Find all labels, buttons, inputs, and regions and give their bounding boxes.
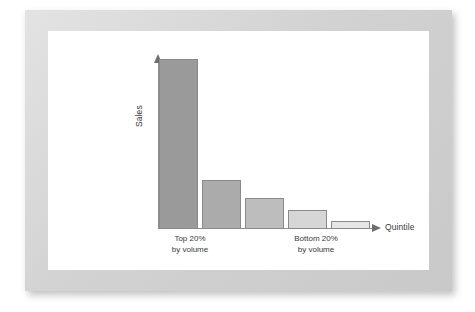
- caption-bottom-line2: by volume: [298, 245, 334, 254]
- caption-bottom-quintile: Bottom 20% by volume: [270, 234, 362, 255]
- caption-bottom-line1: Bottom 20%: [294, 234, 338, 243]
- bar-quintile-5: [331, 221, 370, 230]
- bar-quintile-1: [159, 59, 198, 229]
- bar-quintile-2: [202, 180, 241, 229]
- bar-quintile-3: [245, 198, 284, 229]
- figure-frame: Sales Quintile Top 20% by volume Bottom …: [25, 10, 452, 291]
- bar-quintile-4: [288, 210, 327, 229]
- caption-top-line1: Top 20%: [174, 234, 205, 243]
- chart-canvas: Sales Quintile Top 20% by volume Bottom …: [48, 31, 429, 270]
- caption-top-quintile: Top 20% by volume: [147, 234, 233, 255]
- plot-area: Sales Quintile Top 20% by volume Bottom …: [48, 31, 429, 270]
- caption-top-line2: by volume: [172, 245, 208, 254]
- bars-group: [48, 31, 429, 229]
